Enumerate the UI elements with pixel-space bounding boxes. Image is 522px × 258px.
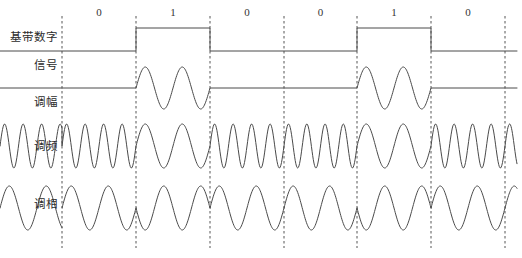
waveform-paths <box>0 28 517 230</box>
am-waveform <box>0 67 517 109</box>
baseband-waveform <box>0 28 517 51</box>
bit-label-5: 0 <box>458 6 478 18</box>
row-label-baseband-line2: 信号 <box>0 56 58 72</box>
bit-label-2: 0 <box>237 6 257 18</box>
row-label-baseband-line1: 基带数字 <box>0 28 58 44</box>
row-label-am: 调幅 <box>0 93 58 109</box>
waveform-canvas <box>0 0 522 258</box>
bit-label-3: 0 <box>311 6 331 18</box>
bit-label-4: 1 <box>384 6 404 18</box>
row-label-fm: 调频 <box>0 137 58 153</box>
fm-waveform <box>0 124 517 168</box>
bit-label-1: 1 <box>163 6 183 18</box>
bit-label-0: 0 <box>89 6 109 18</box>
pm-waveform <box>0 186 517 230</box>
row-label-pm: 调相 <box>0 195 58 211</box>
modulation-figure: 010010 基带数字 信号 调幅 调频 调相 <box>0 0 522 258</box>
